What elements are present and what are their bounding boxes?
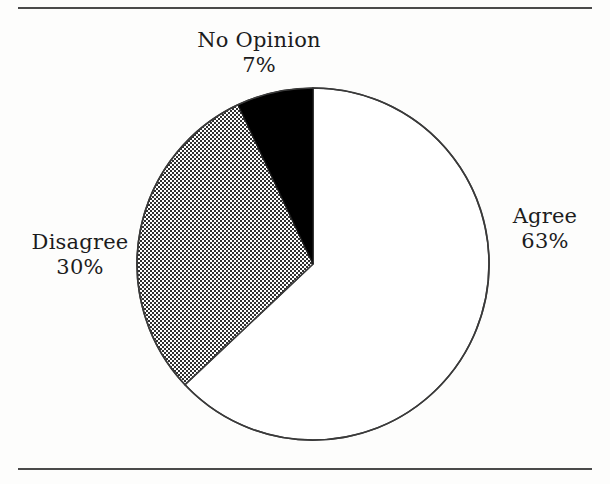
- pie-label-disagree-value: 30%: [0, 255, 160, 280]
- pie-chart-figure: No Opinion 7% Disagree 30% Agree 63%: [0, 0, 610, 484]
- bottom-rule: [18, 468, 592, 470]
- pie-label-agree: Agree 63%: [495, 204, 595, 254]
- pie-label-agree-value: 63%: [495, 229, 595, 254]
- pie-label-no-opinion: No Opinion 7%: [159, 28, 359, 78]
- pie-label-agree-name: Agree: [495, 204, 595, 229]
- pie-label-disagree-name: Disagree: [0, 230, 160, 255]
- pie-label-no-opinion-name: No Opinion: [159, 28, 359, 53]
- pie-label-disagree: Disagree 30%: [0, 230, 160, 280]
- pie-label-no-opinion-value: 7%: [159, 53, 359, 78]
